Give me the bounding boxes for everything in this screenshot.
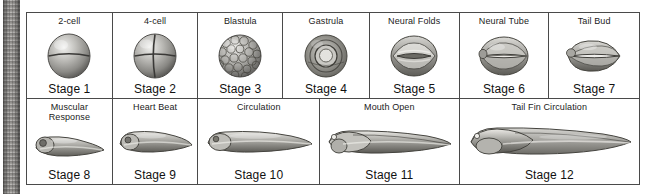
stage-number-label: Stage 11	[320, 168, 459, 182]
embryo-stage-figure: 2-cell Stage 1 4-cell	[26, 12, 640, 185]
stage-number-label: Stage 8	[27, 168, 112, 182]
stage-number-label: Stage 5	[370, 82, 459, 96]
stage-descriptor: Mouth Open	[364, 99, 415, 112]
stage-cell-5[interactable]: Neural Folds Stage	[370, 13, 460, 98]
stage-cell-10[interactable]: Circulation Stage 10	[198, 99, 320, 184]
stage-cell-7[interactable]: Tail Bud Stage 7	[549, 13, 639, 98]
stage-number-label: Stage 12	[460, 168, 639, 182]
stage-cell-4[interactable]: Gastrula Stage 4	[283, 13, 370, 98]
stage-descriptor: Muscular Response	[49, 99, 90, 122]
stage-cell-3[interactable]: Blastula	[198, 13, 283, 98]
stage-cell-6[interactable]: Neural Tube	[460, 13, 550, 98]
early-stages-row: 2-cell Stage 1 4-cell	[26, 12, 640, 99]
stage-cell-11[interactable]: Mouth Open Stage 1	[320, 99, 460, 184]
stage-cell-2[interactable]: 4-cell Stage 2	[113, 13, 199, 98]
stage-number-label: Stage 1	[27, 82, 112, 96]
stage-number-label: Stage 9	[113, 168, 198, 182]
book-binding-strip	[3, 0, 20, 194]
stage-number-label: Stage 3	[198, 82, 282, 96]
stage-descriptor: Neural Tube	[479, 13, 529, 26]
stage-descriptor: Heart Beat	[133, 99, 177, 112]
stage-cell-9[interactable]: Heart Beat Stage 9	[113, 99, 199, 184]
stage-cell-12[interactable]: Tail Fin Circulation	[460, 99, 639, 184]
stage-descriptor: 2-cell	[58, 13, 80, 26]
stage-descriptor: 4-cell	[144, 13, 166, 26]
stage-descriptor: Gastrula	[309, 13, 344, 26]
stage-cell-1[interactable]: 2-cell Stage 1	[27, 13, 113, 98]
stage-number-label: Stage 2	[113, 82, 198, 96]
stage-number-label: Stage 7	[549, 82, 639, 96]
stage-descriptor: Tail Fin Circulation	[512, 99, 588, 112]
stage-descriptor: Neural Folds	[388, 13, 440, 26]
tadpole-stages-row: Muscular Response Stage 8	[26, 98, 640, 185]
stage-number-label: Stage 4	[283, 82, 369, 96]
stage-number-label: Stage 6	[460, 82, 549, 96]
stage-number-label: Stage 10	[198, 168, 319, 182]
stage-cell-8[interactable]: Muscular Response Stage 8	[27, 99, 113, 184]
stage-descriptor: Circulation	[237, 99, 281, 112]
stage-descriptor: Tail Bud	[578, 13, 611, 26]
stage-descriptor: Blastula	[224, 13, 257, 26]
